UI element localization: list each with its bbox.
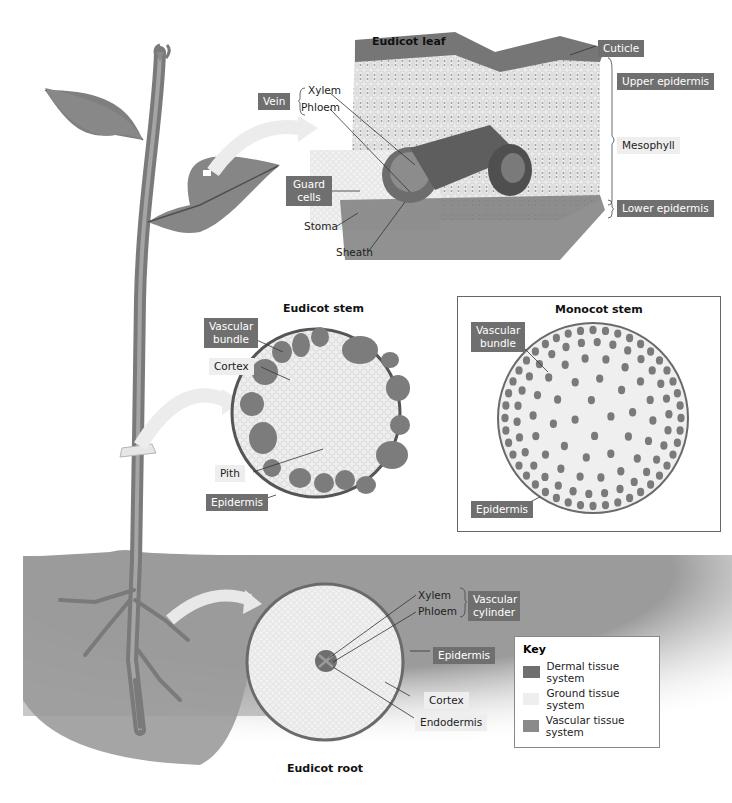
legend-title: Key (523, 643, 651, 656)
label-stem-cortex: Cortex (209, 358, 254, 375)
leaf-title: Eudicot leaf (372, 35, 446, 48)
label-endodermis: Endodermis (415, 714, 487, 731)
label-stem-pith: Pith (215, 465, 245, 482)
leaf-cross-section (310, 32, 605, 260)
legend-item-dermal: Dermal tissue system (523, 660, 651, 684)
legend-item-vascular: Vascular tissue system (523, 714, 651, 738)
label-monocot-vascular-bundle: Vascular bundle (471, 322, 525, 352)
label-stoma: Stoma (304, 220, 338, 233)
label-mesophyll: Mesophyll (617, 137, 680, 154)
label-monocot-epidermis: Epidermis (471, 501, 533, 518)
label-leaf-phloem: Phloem (301, 101, 340, 114)
label-leaf-xylem: Xylem (308, 84, 341, 97)
label-stem-vascular-bundle: Vascular bundle (204, 318, 258, 348)
ground-swatch (523, 693, 539, 705)
monocot-stem-title: Monocot stem (555, 303, 643, 316)
label-cuticle: Cuticle (598, 40, 644, 57)
label-root-epidermis: Epidermis (433, 647, 495, 664)
label-stem-epidermis: Epidermis (206, 494, 268, 511)
root-title: Eudicot root (287, 762, 363, 775)
label-guard-cells: Guard cells (286, 176, 332, 206)
label-root-cortex: Cortex (424, 692, 469, 709)
eudicot-root-cross-section (247, 584, 403, 740)
label-root-xylem: Xylem (418, 589, 451, 602)
label-vein: Vein (258, 93, 290, 110)
label-root-phloem: Phloem (418, 605, 457, 618)
label-vascular-cylinder: Vascular cylinder (468, 591, 520, 621)
label-sheath: Sheath (336, 246, 373, 259)
eudicot-stem-cross-section (232, 327, 410, 497)
legend-item-ground: Ground tissue system (523, 687, 651, 711)
legend: Key Dermal tissue system Ground tissue s… (514, 636, 660, 748)
legend-label: Ground tissue system (546, 687, 651, 711)
legend-label: Dermal tissue system (547, 660, 652, 684)
label-upper-epidermis: Upper epidermis (617, 73, 714, 90)
label-lower-epidermis: Lower epidermis (617, 200, 714, 217)
dermal-swatch (523, 666, 540, 678)
eudicot-stem-title: Eudicot stem (283, 302, 364, 315)
legend-label: Vascular tissue system (546, 714, 651, 738)
vascular-swatch (523, 720, 539, 732)
